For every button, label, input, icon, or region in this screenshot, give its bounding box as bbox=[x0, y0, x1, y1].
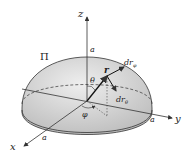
a-top-label: a bbox=[90, 45, 95, 54]
z-label: z bbox=[77, 8, 84, 19]
hemisphere-diagram: z y x a a a Π r θ φ drφ drθ bbox=[0, 0, 194, 159]
a-front-label: a bbox=[42, 133, 47, 142]
x-label: x bbox=[10, 141, 16, 152]
y-label: y bbox=[174, 113, 181, 124]
a-right-label: a bbox=[150, 115, 155, 124]
phi-label: φ bbox=[82, 110, 88, 119]
theta-label: θ bbox=[90, 76, 95, 85]
pi-label: Π bbox=[40, 51, 49, 62]
